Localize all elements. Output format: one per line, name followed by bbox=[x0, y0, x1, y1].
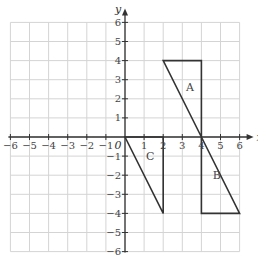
coordinate-grid: ABC −6−5−4−3−2−1123456654321−1−2−3−4−5−6… bbox=[0, 0, 258, 257]
x-tick-label: 5 bbox=[217, 140, 223, 151]
x-axis-arrow-icon bbox=[247, 134, 254, 140]
axes bbox=[8, 8, 253, 252]
x-tick-label: 3 bbox=[179, 140, 185, 151]
y-tick-label: −6 bbox=[106, 246, 121, 257]
y-tick-label: 4 bbox=[115, 55, 121, 66]
y-tick-label: −5 bbox=[106, 227, 121, 238]
y-tick-label: 5 bbox=[115, 36, 121, 47]
y-tick-label: −1 bbox=[106, 151, 121, 162]
y-tick-label: 1 bbox=[115, 112, 121, 123]
x-tick-label: −3 bbox=[60, 140, 75, 151]
x-tick-label: −1 bbox=[99, 140, 114, 151]
y-axis-label: y bbox=[114, 3, 122, 16]
x-axis-label: x bbox=[257, 131, 258, 144]
x-tick-label: −4 bbox=[41, 140, 56, 151]
y-tick-label: −3 bbox=[106, 189, 121, 200]
x-tick-label: −5 bbox=[22, 140, 37, 151]
origin-label: 0 bbox=[115, 139, 122, 152]
triangle-label-c: C bbox=[146, 150, 154, 163]
y-tick-label: −2 bbox=[106, 170, 121, 181]
triangle-label-a: A bbox=[185, 81, 195, 94]
x-tick-label: 2 bbox=[160, 140, 166, 151]
y-tick-label: 6 bbox=[115, 17, 121, 28]
y-axis-arrow-icon bbox=[122, 8, 128, 15]
y-tick-label: 3 bbox=[115, 74, 121, 85]
x-tick-label: −6 bbox=[3, 140, 18, 151]
x-tick-label: 4 bbox=[198, 140, 204, 151]
y-tick-label: 2 bbox=[115, 93, 121, 104]
x-tick-label: 6 bbox=[236, 140, 242, 151]
x-tick-label: 1 bbox=[141, 140, 147, 151]
triangle-label-b: B bbox=[213, 169, 221, 182]
y-tick-label: −4 bbox=[106, 208, 121, 219]
x-tick-label: −2 bbox=[79, 140, 94, 151]
